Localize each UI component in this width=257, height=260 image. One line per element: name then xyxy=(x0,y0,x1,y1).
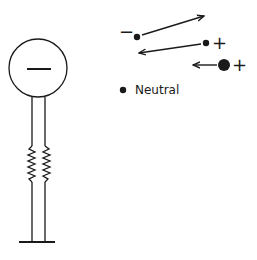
positive-label: + xyxy=(232,54,247,75)
neutral-label: Neutral xyxy=(135,83,179,97)
electroscope-diagram: − + + Neutral xyxy=(0,0,257,260)
particle-dot-large xyxy=(218,59,230,71)
positive-label: + xyxy=(212,32,227,53)
positive-particle-small: + xyxy=(139,32,227,53)
arrow-right-icon xyxy=(142,16,204,35)
particle-dot xyxy=(203,40,209,46)
positive-particle-large: + xyxy=(193,54,247,75)
neutral-legend: Neutral xyxy=(120,83,179,97)
negative-label: − xyxy=(119,21,134,42)
electroscope xyxy=(9,39,67,242)
particle-dot xyxy=(134,34,140,40)
arrow-left-icon xyxy=(139,44,201,53)
negative-particle: − xyxy=(119,16,204,42)
neutral-dot xyxy=(120,87,126,93)
right-spring-icon xyxy=(43,146,50,182)
left-spring-icon xyxy=(28,146,35,182)
